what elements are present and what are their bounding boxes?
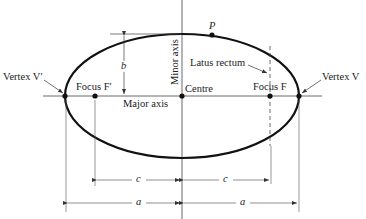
c-label-right: c: [223, 174, 228, 185]
focus-left-label: Focus F′: [76, 82, 112, 93]
vertex-left-label: Vertex V′: [3, 72, 43, 83]
centre-point: [179, 93, 184, 98]
b-label: b: [121, 61, 126, 72]
point-p: [209, 32, 214, 37]
c-label-left: c: [136, 174, 141, 185]
a-label-right: a: [240, 197, 245, 208]
centre-label: Centre: [185, 84, 213, 95]
focus-right-label: Focus F: [253, 82, 287, 93]
a-label-left: a: [136, 197, 141, 208]
major-axis-label: Major axis: [123, 99, 168, 110]
ellipse-diagram: [0, 0, 366, 219]
vertex-right-point: [296, 93, 301, 98]
vertex-right-leader: [302, 80, 321, 93]
latus-rectum-label: Latus rectum: [190, 58, 245, 69]
vertex-left-point: [62, 93, 67, 98]
minor-axis-label: Minor axis: [170, 39, 181, 85]
vertex-right-label: Vertex V: [322, 72, 359, 83]
latus-rectum-leader: [248, 65, 267, 73]
focus-left-point: [92, 93, 97, 98]
vertex-left-leader: [44, 80, 63, 93]
point-p-label: P: [209, 21, 215, 32]
focus-right-point: [267, 93, 272, 98]
